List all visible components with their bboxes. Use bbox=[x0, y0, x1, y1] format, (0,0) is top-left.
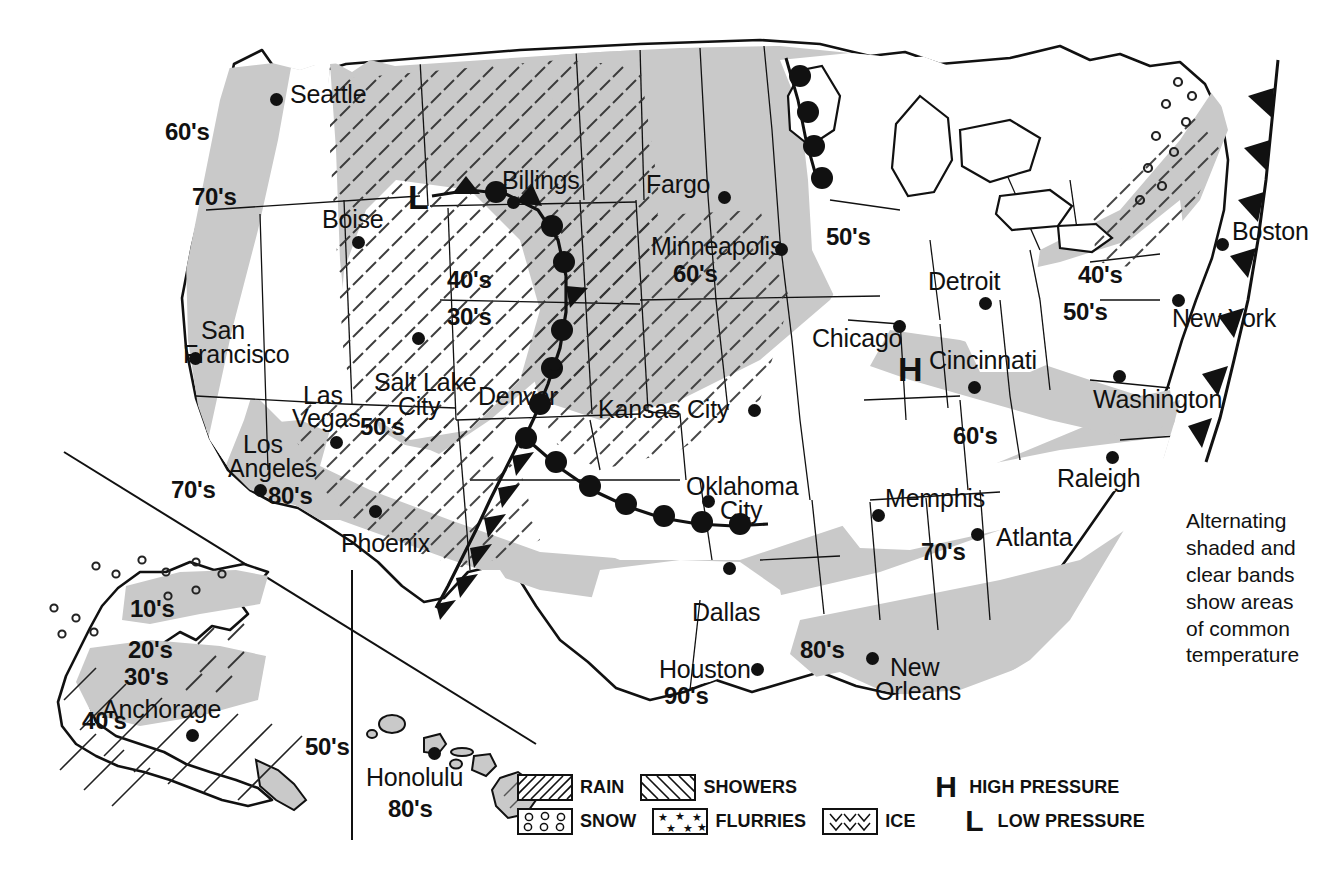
alaska-band-south bbox=[76, 640, 266, 726]
city-marker-dot bbox=[352, 236, 365, 249]
island-maui bbox=[472, 754, 496, 776]
city-marker-dot bbox=[971, 528, 984, 541]
island-molokai bbox=[451, 748, 473, 756]
city-marker-dot bbox=[748, 404, 761, 417]
map-legend: RAINSHOWERSHHIGH PRESSURESNOW★★★★★★FLURR… bbox=[517, 772, 1217, 840]
high-pressure-icon: H bbox=[931, 770, 961, 804]
low-pressure-icon: L bbox=[960, 804, 990, 838]
island-niihau bbox=[367, 730, 377, 738]
city-marker-dot bbox=[428, 747, 441, 760]
city-marker-dot bbox=[893, 320, 906, 333]
city-marker-dot bbox=[412, 332, 425, 345]
svg-text:★: ★ bbox=[697, 821, 706, 833]
weather-map-graphic bbox=[0, 0, 1344, 891]
legend-item-flurries: ★★★★★★FLURRIES bbox=[652, 808, 806, 835]
city-marker-dot bbox=[254, 484, 267, 497]
map-annotation: Alternating shaded and clear bands show … bbox=[1186, 508, 1299, 669]
city-marker-dot bbox=[507, 196, 520, 209]
city-marker-dot bbox=[718, 191, 731, 204]
legend-item-high: HHIGH PRESSURE bbox=[931, 770, 1119, 804]
city-marker-dot bbox=[186, 729, 199, 742]
legend-item-showers: SHOWERS bbox=[640, 774, 797, 801]
island-kauai bbox=[379, 715, 405, 733]
flurries-pattern-icon: ★★★★★★ bbox=[652, 808, 708, 835]
legend-item-ice: ICE bbox=[822, 808, 915, 835]
city-marker-dot bbox=[702, 495, 715, 508]
city-marker-dot bbox=[979, 297, 992, 310]
city-marker-dot bbox=[866, 652, 879, 665]
legend-label: FLURRIES bbox=[715, 811, 806, 832]
city-marker-dot bbox=[548, 358, 561, 371]
city-marker-dot bbox=[330, 436, 343, 449]
legend-label: SNOW bbox=[580, 811, 636, 832]
legend-row-top: RAINSHOWERSHHIGH PRESSURE bbox=[517, 772, 1135, 802]
island-lanai bbox=[450, 760, 462, 769]
legend-label: LOW PRESSURE bbox=[998, 811, 1145, 832]
city-marker-dot bbox=[270, 93, 283, 106]
legend-item-snow: SNOW bbox=[517, 808, 636, 835]
city-marker-dot bbox=[369, 505, 382, 518]
city-marker-dot bbox=[1106, 451, 1119, 464]
legend-item-low: LLOW PRESSURE bbox=[960, 804, 1145, 838]
city-marker-dot bbox=[1216, 238, 1229, 251]
svg-text:★: ★ bbox=[683, 822, 693, 833]
weather-map-page: SeattleBoiseBillingsFargoMinneapolisDetr… bbox=[0, 0, 1344, 891]
legend-row-bottom: SNOW★★★★★★FLURRIESICELLOW PRESSURE bbox=[517, 806, 1161, 836]
city-marker-dot bbox=[1113, 370, 1126, 383]
svg-text:★: ★ bbox=[675, 810, 685, 822]
city-marker-dot bbox=[723, 562, 736, 575]
city-marker-dot bbox=[968, 381, 981, 394]
city-marker-dot bbox=[189, 352, 202, 365]
city-marker-dot bbox=[1172, 294, 1185, 307]
svg-text:★: ★ bbox=[666, 822, 676, 833]
snow-pattern-icon bbox=[517, 808, 573, 835]
city-marker-dot bbox=[751, 663, 764, 676]
ice-pattern-icon bbox=[822, 808, 878, 835]
rain-pattern-icon bbox=[517, 774, 573, 801]
showers-pattern-icon bbox=[640, 774, 696, 801]
city-marker-dot bbox=[872, 509, 885, 522]
legend-label: SHOWERS bbox=[703, 777, 797, 798]
legend-item-rain: RAIN bbox=[517, 774, 624, 801]
legend-label: ICE bbox=[885, 811, 915, 832]
city-marker-dot bbox=[775, 243, 788, 256]
legend-label: RAIN bbox=[580, 777, 624, 798]
legend-label: HIGH PRESSURE bbox=[969, 777, 1119, 798]
